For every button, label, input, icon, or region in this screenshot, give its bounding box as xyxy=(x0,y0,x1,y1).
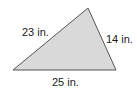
triangle-shape xyxy=(13,8,116,70)
side-label-bottom: 25 in. xyxy=(52,76,79,88)
side-label-right: 14 in. xyxy=(106,33,133,45)
triangle-diagram: 23 in. 14 in. 25 in. xyxy=(0,0,137,92)
side-label-left: 23 in. xyxy=(22,26,49,38)
